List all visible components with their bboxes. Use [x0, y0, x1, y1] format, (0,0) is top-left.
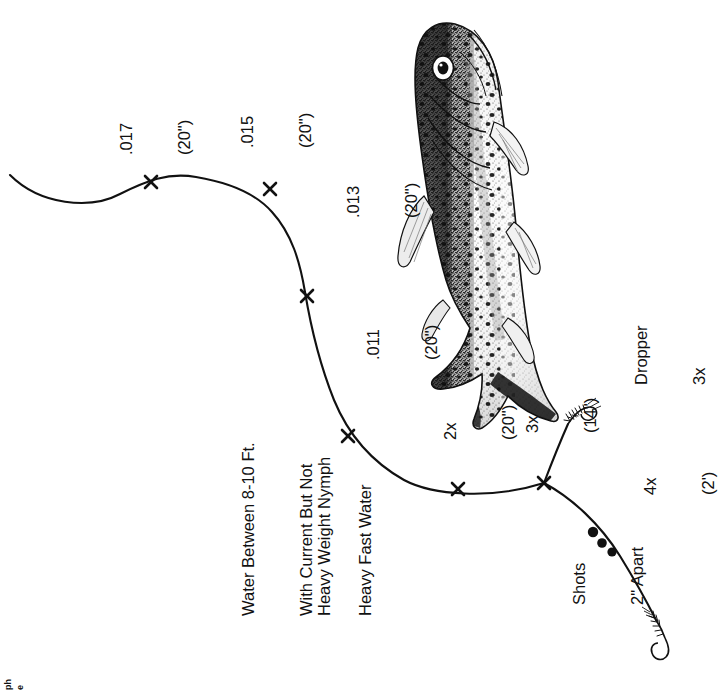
- tippet-size: .013: [344, 183, 363, 218]
- trout-illustration: [398, 10, 580, 440]
- tippet-length: (20"): [402, 183, 421, 218]
- label-dropper: Dropper 3x: [593, 325, 722, 385]
- description-line: Water Between 8-10 Ft.: [239, 442, 258, 616]
- label-seg-013: .013 (20"): [305, 183, 461, 218]
- dropper-size: 3x: [690, 325, 709, 385]
- edge-text-column: ph e ns ty an re ck lo y e g: ir- 's er: [0, 0, 26, 692]
- tippet-length: (20"): [422, 325, 441, 360]
- label-seg-4x: 4x (2'): [602, 472, 722, 495]
- label-seg-015: .015 (20"): [199, 113, 355, 148]
- shots-title: Shots: [570, 547, 589, 605]
- dropper-title: Dropper: [632, 325, 651, 385]
- label-seg-011: .011 (20"): [325, 325, 481, 360]
- knot-mark: [264, 183, 276, 195]
- label-seg-3x: 3x (14"): [484, 398, 640, 433]
- tippet-size: .011: [364, 325, 383, 360]
- split-shot: [588, 527, 598, 537]
- tippet-size: 2x: [441, 405, 460, 440]
- fly-type: Heavy Weight Nymph: [315, 457, 334, 616]
- edge-char: e: [15, 685, 25, 690]
- point-fly: [642, 607, 669, 660]
- knot-mark: [538, 477, 550, 489]
- label-shots: Shots 2" Apart: [531, 547, 687, 605]
- tippet-length: (14"): [581, 398, 600, 433]
- tippet-size: 4x: [641, 472, 660, 495]
- tippet-length: (20"): [175, 120, 194, 155]
- tippet-size: 3x: [523, 398, 542, 433]
- tippet-length: (20"): [296, 113, 315, 148]
- tippet-length: (2'): [699, 472, 718, 495]
- tippet-size: .017: [117, 120, 136, 155]
- fly-type-label: Heavy Weight Nymph: [276, 457, 373, 616]
- tippet-size: .015: [238, 113, 257, 148]
- edge-char: ph: [3, 679, 13, 690]
- knot-mark: [342, 430, 354, 442]
- shots-spacing: 2" Apart: [628, 547, 647, 605]
